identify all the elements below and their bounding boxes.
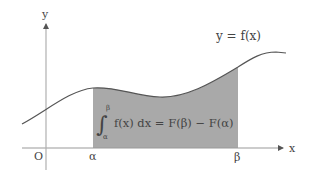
origin-label: O — [34, 150, 43, 163]
y-axis-label: y — [41, 8, 49, 21]
integral-diagram: y x O α β y = f(x) ∫ β α f(x) dx = F(β) … — [0, 0, 311, 178]
integral-upper-limit: β — [106, 104, 110, 112]
x-axis-label: x — [289, 142, 296, 155]
integral-lower-limit: α — [103, 133, 108, 141]
formula-text: f(x) dx = F(β) − F(α) — [114, 116, 233, 130]
curve-label: y = f(x) — [215, 29, 261, 43]
alpha-tick-label: α — [89, 150, 97, 163]
diagram-canvas: y x O α β y = f(x) ∫ β α f(x) dx = F(β) … — [0, 0, 311, 178]
beta-tick-label: β — [234, 151, 240, 164]
